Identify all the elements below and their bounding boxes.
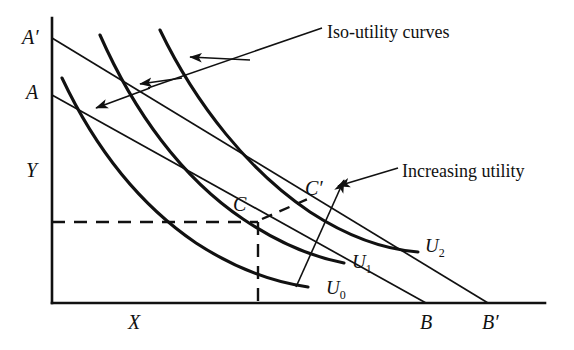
axis-label-y: Y — [26, 160, 37, 180]
curve-label-U2-subscript: 2 — [439, 246, 445, 260]
figure-canvas: A′ A Y X B B′ C C′ U0 U1 U2 Iso-utility … — [0, 0, 574, 350]
curve-label-U2-base: U — [425, 235, 439, 256]
axis-label-a-prime: A′ — [22, 27, 39, 47]
axis-label-b: B — [420, 312, 432, 332]
leader-branch-to-U2 — [190, 57, 250, 60]
annotation-leaders-group — [96, 28, 398, 186]
axis-label-b-prime: B′ — [482, 312, 499, 332]
point-label-C-prime: C′ — [305, 178, 323, 198]
curve-label-U1: U1 — [352, 252, 372, 275]
curve-label-U0-subscript: 0 — [340, 288, 346, 302]
dashed-guides-group — [52, 198, 310, 303]
curve-label-U0: U0 — [326, 278, 346, 301]
axis-label-a: A — [26, 82, 38, 102]
leader-branch-to-U0 — [96, 88, 150, 108]
curve-label-U1-subscript: 1 — [366, 262, 372, 276]
iso-utility-curve-U1 — [100, 35, 344, 263]
iso-utility-curve-U2 — [160, 30, 418, 252]
iso-utility-curves-label: Iso-utility curves — [327, 23, 449, 41]
axis-label-x: X — [128, 312, 140, 332]
increasing-utility-leader-line — [338, 168, 398, 186]
curve-label-U2: U2 — [425, 236, 445, 259]
point-label-C: C — [233, 194, 246, 214]
curve-label-U1-base: U — [352, 251, 366, 272]
curve-label-U0-base: U — [326, 277, 340, 298]
increasing-utility-label: Increasing utility — [402, 162, 524, 180]
iso-utility-curves-group — [62, 30, 418, 287]
